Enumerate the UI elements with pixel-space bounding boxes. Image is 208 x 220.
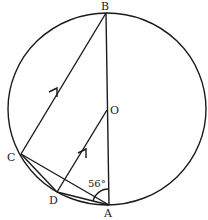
chord-da [57,192,109,205]
chord-cd [21,154,57,192]
angle-label: 56° [88,178,106,189]
label-o: O [110,104,119,117]
label-c: C [7,151,15,164]
angle-arc [93,189,109,201]
diameter-ba [106,13,109,205]
label-a: A [103,207,113,220]
label-d: D [49,194,58,207]
label-b: B [101,0,109,13]
circle-diagram: B O C D A 56° [0,0,208,220]
